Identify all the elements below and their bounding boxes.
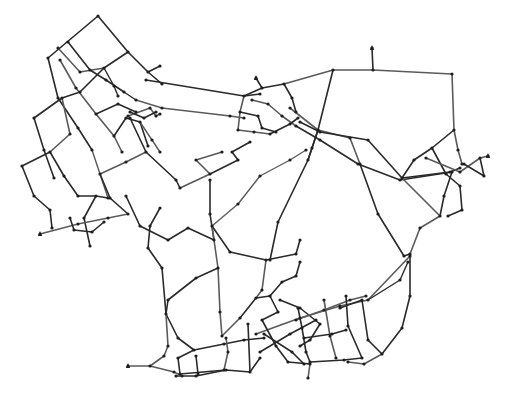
road-node [334,356,337,359]
road-node [48,150,51,153]
road-node [112,134,115,137]
road-node [294,318,297,321]
road-node [228,114,231,117]
road-node [260,126,263,129]
road-node [32,194,35,197]
road-node [288,106,291,109]
road-node [178,186,181,189]
road-node [194,158,197,161]
road-node [124,160,127,163]
road-node [308,362,311,365]
road-node [122,90,125,93]
road-node [164,312,167,315]
road-node [258,92,261,95]
road-node [52,176,55,179]
road-node [446,214,449,217]
road-node [250,98,253,101]
road-node [290,96,293,99]
road-node [116,102,119,105]
road-node [290,350,293,353]
road-node [94,112,97,115]
road-node [322,308,325,311]
road-node [376,212,379,215]
road-node [294,124,297,127]
road-node [268,258,271,261]
road-node [256,114,259,117]
road-node [50,226,53,229]
road-node [148,106,151,109]
road-node [128,110,131,113]
road-node [160,82,163,85]
road-node [174,374,177,377]
road-node [56,46,59,49]
road-node [450,170,453,173]
road-node [360,356,363,359]
road-node [72,228,75,231]
road-node [268,132,271,135]
road-node [138,120,141,123]
road-node [408,294,411,297]
road-node [76,194,79,197]
road-node [286,360,289,363]
road-node [262,336,265,339]
road-node [366,138,369,141]
road-node [154,110,157,113]
road-node [294,252,297,255]
road-node [266,102,269,105]
road-node [278,298,281,301]
road-node [258,350,261,353]
road-node [98,172,101,175]
road-node [226,350,229,353]
road-node [298,238,301,241]
road-node [208,178,211,181]
road-node [302,362,305,365]
road-node [344,328,347,331]
road-node [196,372,199,375]
road-node [282,82,285,85]
road-node [208,212,211,215]
road-node [228,250,231,253]
road-node [342,358,345,361]
road-node [306,158,309,161]
road-node [458,170,461,173]
road-node [310,146,313,149]
road-node [134,110,137,113]
road-node [148,224,151,227]
road-node [418,226,421,229]
road-node [146,70,149,73]
road-node [478,156,481,159]
road-node [458,166,461,169]
road-node [210,224,213,227]
road-node [294,274,297,277]
road-node [408,254,411,257]
road-node [400,326,403,329]
road-node [406,260,409,263]
road-node [68,132,71,135]
road-node [74,86,77,89]
road-node [238,110,241,113]
road-node [112,84,115,87]
road-node [452,128,455,131]
road-node [280,280,283,283]
road-node [276,310,279,313]
road-node [172,370,175,373]
road-node [32,116,35,119]
road-node [180,374,183,377]
road-node [442,194,445,197]
road-node [298,120,301,123]
road-node [412,158,415,161]
road-node [42,148,45,151]
road-node [154,114,157,117]
road-node [460,208,463,211]
road-node [318,138,321,141]
road-node [176,336,179,339]
road-node [304,148,307,151]
road-node [82,216,85,219]
road-node [330,332,333,335]
road-node [48,208,51,211]
road-node [252,130,255,133]
road-node [128,116,131,119]
road-node [402,254,405,257]
road-node [242,338,245,341]
road-node [216,266,219,269]
